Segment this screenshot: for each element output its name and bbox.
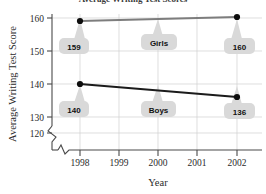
callout-girls-1998: 159: [59, 38, 89, 54]
y-tick-label-130: 130: [30, 113, 45, 123]
callout-boys-1998: 140: [59, 101, 89, 117]
x-axis-break-icon: [58, 145, 262, 154]
chart-svg: 160 150 140 130 120 1998 1999 2000 2001 …: [0, 0, 266, 194]
x-tick-label-1999: 1999: [110, 158, 129, 168]
x-axis-title: Year: [148, 177, 168, 188]
x-tick-label-2000: 2000: [149, 158, 168, 168]
x-tick-label-2002: 2002: [228, 158, 247, 168]
x-tick-labels: 1998 1999 2000 2001 2002: [71, 158, 247, 168]
y-axis: [47, 14, 56, 150]
callout-boys-series: Boys: [141, 101, 176, 117]
y-tick-label-150: 150: [30, 47, 45, 57]
series-line-girls: [80, 17, 237, 21]
callout-label-boys-2002: 136: [233, 108, 247, 117]
y-axis-break-icon: [48, 126, 56, 150]
chart-container: Average Writing Test Scores: [0, 0, 266, 194]
marker-boys-2002: [234, 94, 240, 100]
y-tick-label-160: 160: [30, 14, 45, 24]
y-tick-label-140: 140: [30, 80, 45, 90]
y-axis-title: Average Writing Test Score: [7, 26, 18, 142]
marker-boys-1998: [77, 81, 83, 87]
marker-girls-2002: [234, 14, 240, 20]
callout-label-girls-series: Girls: [150, 39, 169, 48]
x-axis: [52, 145, 262, 156]
y-tick-labels: 160 150 140 130 120: [30, 14, 45, 139]
callout-label-boys-series: Boys: [149, 106, 169, 115]
callout-label-boys-1998: 140: [67, 106, 81, 115]
callout-label-girls-2002: 160: [233, 43, 247, 52]
x-tick-label-2001: 2001: [188, 158, 207, 168]
callout-girls-2002: 160: [224, 38, 255, 54]
callout-boys-2002: 136: [224, 103, 255, 119]
x-tick-label-1998: 1998: [71, 158, 90, 168]
callout-label-girls-1998: 159: [67, 43, 81, 52]
y-tick-label-120: 120: [30, 129, 45, 139]
marker-girls-1998: [77, 18, 83, 24]
callout-girls-series: Girls: [141, 34, 177, 50]
